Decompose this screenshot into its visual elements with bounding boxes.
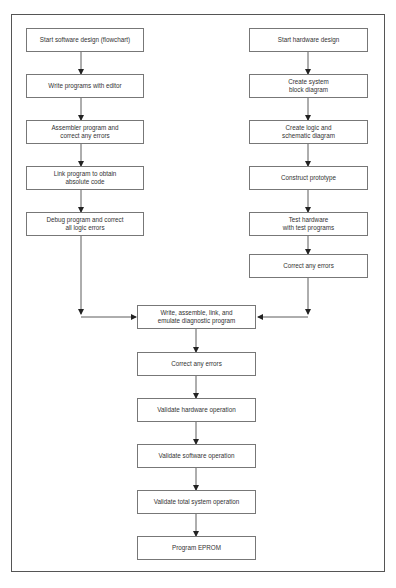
step-diagnostic-program: Write, assemble, link, and emulate diagn… [137, 305, 256, 329]
step-create-schematic: Create logic and schematic diagram [249, 120, 368, 144]
step-test-hardware: Test hardware with test programs [249, 212, 368, 236]
step-create-block-diagram: Create system block diagram [249, 74, 368, 98]
step-link-program: Link program to obtain absolute code [26, 166, 144, 190]
step-construct-prototype: Construct prototype [249, 166, 368, 190]
step-correct-errors: Correct any errors [137, 352, 256, 376]
step-debug-program: Debug program and correct all logic erro… [26, 212, 144, 236]
step-start-software-design: Start software design (flowchart) [26, 28, 144, 52]
step-assemble-program: Assembler program and correct any errors [26, 120, 144, 144]
step-validate-system: Validate total system operation [137, 490, 256, 514]
step-start-hardware-design: Start hardware design [249, 28, 368, 52]
step-write-programs: Write programs with editor [26, 74, 144, 98]
step-validate-hardware: Validate hardware operation [137, 398, 256, 422]
step-correct-hardware-errors: Correct any errors [249, 254, 368, 278]
step-program-eprom: Program EPROM [137, 536, 256, 560]
step-validate-software: Validate software operation [137, 444, 256, 468]
